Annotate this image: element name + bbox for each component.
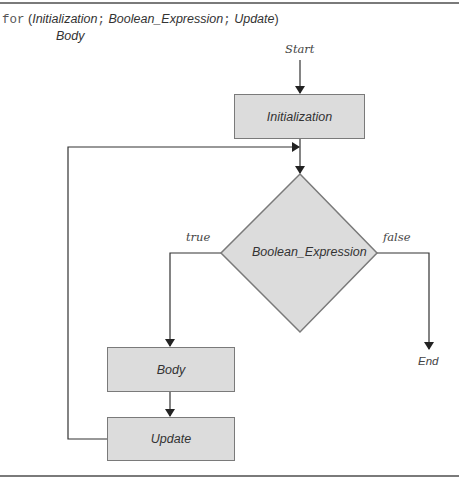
body-label: Body [157,363,186,377]
update-box: Update [107,417,235,461]
false-label: false [383,230,411,244]
initialization-label: Initialization [267,110,332,124]
initialization-box: Initialization [234,94,365,139]
update-label: Update [151,432,191,446]
flowchart-connectors [0,0,459,488]
condition-label: Boolean_Expression [252,245,367,259]
true-label: true [186,230,210,244]
start-label: Start [285,42,314,56]
body-box: Body [107,347,235,392]
end-label: End [418,355,438,367]
